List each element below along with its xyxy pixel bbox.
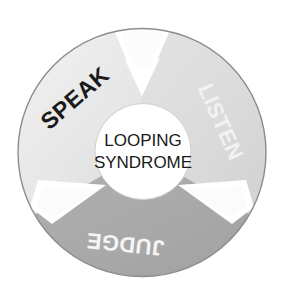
center-label-line2: SYNDROME — [94, 153, 192, 172]
center-hub-circle — [95, 104, 191, 200]
center-label-line1: LOOPING — [104, 131, 181, 150]
cycle-diagram-canvas: LOOPING SYNDROME SPEAK LISTEN JUDGE — [0, 0, 285, 301]
looping-syndrome-diagram: LOOPING SYNDROME SPEAK LISTEN JUDGE — [0, 0, 285, 301]
